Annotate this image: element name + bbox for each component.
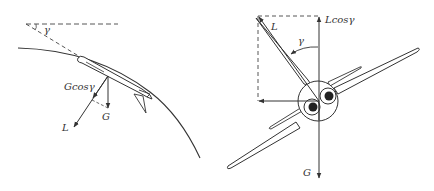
g-label: G <box>102 111 110 122</box>
gamma-label-right: γ <box>298 35 304 46</box>
gcos-vector <box>93 76 108 98</box>
l-label-right: L <box>270 21 278 32</box>
aircraft-front-view <box>227 18 419 169</box>
l-vector-right <box>259 17 319 101</box>
diagram-svg: γ Gcosγ G L <box>0 0 434 191</box>
diagram-canvas: γ Gcosγ G L <box>0 0 434 191</box>
g-label-right: G <box>303 167 311 178</box>
flight-path-curve <box>18 48 200 158</box>
gcos-label: Gcosγ <box>64 81 95 92</box>
projection-dash <box>92 100 108 108</box>
gamma-angle-arc-right <box>291 47 318 54</box>
right-panel: L Lcosγ γ G <box>227 14 419 178</box>
lcos-label: Lcosγ <box>324 14 354 25</box>
l-label: L <box>61 122 69 133</box>
gamma-label: γ <box>44 24 50 35</box>
left-panel: γ Gcosγ G L <box>18 24 200 158</box>
